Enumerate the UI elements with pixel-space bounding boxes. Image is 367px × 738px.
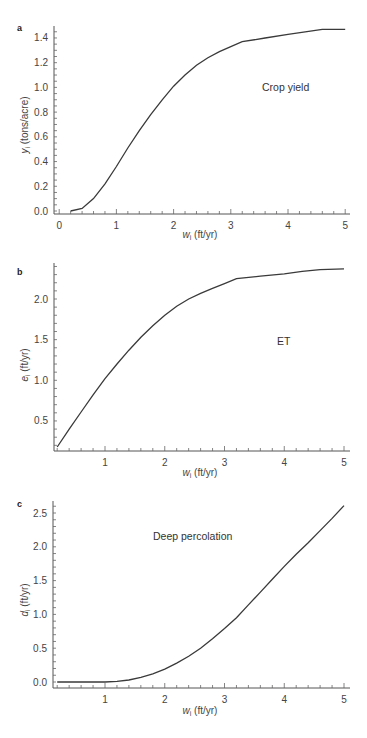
y-tick-label: 1.0: [34, 82, 48, 93]
x-axis-label: wi (ft/yr): [183, 229, 218, 241]
y-axis-label: yi (tons/acre): [19, 96, 31, 154]
y-axis-label: di (ft/yr): [19, 583, 31, 616]
tick-marks: [54, 32, 345, 214]
y-tick-label: 2.0: [33, 541, 47, 552]
y-tick-label: 0.0: [33, 677, 47, 688]
axes: [54, 26, 350, 214]
y-tick-label: 0.5: [33, 643, 47, 654]
y-tick-label: 1.5: [33, 575, 47, 586]
x-tick-label: 1: [102, 694, 108, 705]
x-tick-label: 0: [56, 220, 62, 231]
x-tick-labels: 12345: [102, 694, 347, 705]
y-tick-label: 1.0: [34, 375, 48, 386]
x-tick-label: 5: [341, 694, 347, 705]
panel-a-crop-yield: a 012345 0.00.20.40.60.81.01.21.4 Crop y…: [17, 23, 350, 241]
y-tick-labels: 0.00.51.01.52.02.5: [33, 508, 47, 688]
x-tick-label: 4: [285, 220, 291, 231]
crop-yield-curve: [71, 29, 346, 211]
curve-annotation: Deep percolation: [153, 530, 233, 542]
y-tick-label: 0.6: [34, 131, 48, 142]
panel-letter: b: [17, 267, 23, 277]
x-tick-label: 4: [281, 457, 287, 468]
x-tick-label: 3: [228, 220, 234, 231]
y-tick-labels: 0.00.20.40.60.81.01.21.4: [34, 32, 48, 216]
y-tick-label: 2.0: [34, 294, 48, 305]
y-tick-label: 0.8: [34, 107, 48, 118]
x-tick-label: 1: [114, 220, 120, 231]
panel-c-deep-percolation: c 12345 0.00.51.01.52.02.5 Deep percolat…: [17, 499, 350, 717]
y-tick-label: 0.0: [34, 206, 48, 217]
x-tick-label: 3: [222, 457, 228, 468]
x-tick-label: 5: [342, 220, 348, 231]
x-tick-labels: 12345: [102, 457, 347, 468]
y-tick-label: 0.2: [34, 181, 48, 192]
x-tick-label: 2: [162, 694, 168, 705]
x-tick-label: 2: [171, 220, 177, 231]
y-tick-label: 0.5: [34, 415, 48, 426]
y-tick-label: 1.2: [34, 57, 48, 68]
panel-b-et: b 12345 0.51.01.52.0 ET wi (ft/yr) ei (f…: [17, 263, 350, 479]
x-axis-label: wi (ft/yr): [183, 467, 218, 479]
axes: [54, 263, 350, 451]
y-tick-label: 0.4: [34, 156, 48, 167]
et-curve: [57, 269, 344, 447]
x-tick-label: 2: [162, 457, 168, 468]
figure: a 012345 0.00.20.40.60.81.01.21.4 Crop y…: [0, 0, 367, 738]
y-tick-label: 1.5: [34, 334, 48, 345]
x-tick-label: 4: [281, 694, 287, 705]
y-tick-label: 1.4: [34, 32, 48, 43]
x-tick-label: 1: [102, 457, 108, 468]
y-tick-label: 1.0: [33, 609, 47, 620]
x-tick-label: 5: [341, 457, 347, 468]
y-axis-label: ei (ft/yr): [19, 348, 31, 381]
curve-annotation: Crop yield: [262, 81, 309, 93]
y-tick-labels: 0.51.01.52.0: [34, 294, 48, 427]
x-axis-label: wi (ft/yr): [183, 705, 218, 717]
panel-letter: a: [17, 23, 23, 33]
panel-letter: c: [17, 499, 22, 509]
x-tick-label: 3: [222, 694, 228, 705]
y-tick-label: 2.5: [33, 508, 47, 519]
curve-annotation: ET: [277, 335, 291, 347]
